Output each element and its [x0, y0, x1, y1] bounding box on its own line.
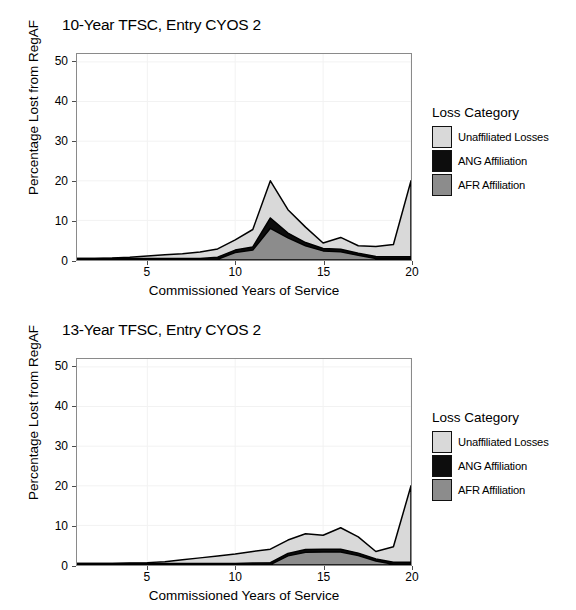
- chart-panel-13-year: 13-Year TFSC, Entry CYOS 2 Percentage Lo…: [0, 305, 576, 610]
- y-tick-label: 0: [42, 254, 68, 268]
- area-chart-svg: [77, 359, 411, 565]
- y-tick-label: 10: [42, 214, 68, 228]
- x-tick-label: 5: [143, 265, 150, 279]
- legend: Loss Category Unaffiliated Losses ANG Af…: [432, 410, 576, 502]
- chart-panel-10-year: 10-Year TFSC, Entry CYOS 2 Percentage Lo…: [0, 0, 576, 305]
- x-tick-label: 10: [228, 570, 241, 584]
- legend-label: Unaffiliated Losses: [458, 131, 549, 143]
- x-tick-label: 5: [143, 570, 150, 584]
- y-tick-label: 40: [42, 399, 68, 413]
- legend-row[interactable]: ANG Affiliation: [432, 454, 576, 478]
- legend-swatch-ang: [432, 150, 452, 172]
- y-tick-label: 20: [42, 174, 68, 188]
- chart-title: 10-Year TFSC, Entry CYOS 2: [62, 16, 261, 34]
- legend-swatch-unaffiliated: [432, 126, 452, 148]
- x-tick-label: 15: [317, 265, 330, 279]
- legend-row[interactable]: Unaffiliated Losses: [432, 125, 576, 149]
- legend-swatch-afr: [432, 479, 452, 501]
- chart-title: 13-Year TFSC, Entry CYOS 2: [62, 321, 261, 339]
- y-tick-mark: [72, 261, 76, 262]
- legend-label: ANG Affiliation: [458, 155, 527, 167]
- y-tick-label: 20: [42, 479, 68, 493]
- x-tick-label: 15: [317, 570, 330, 584]
- y-axis-label: Percentage Lost from RegAF: [26, 298, 41, 528]
- legend-row[interactable]: AFR Affiliation: [432, 478, 576, 502]
- y-tick-mark: [72, 566, 76, 567]
- x-axis-label: Commissioned Years of Service: [76, 588, 412, 603]
- y-tick-mark: [72, 101, 76, 102]
- y-tick-mark: [72, 446, 76, 447]
- y-axis-label: Percentage Lost from RegAF: [26, 0, 41, 223]
- y-tick-mark: [72, 61, 76, 62]
- legend-items: Unaffiliated Losses ANG Affiliation AFR …: [432, 430, 576, 502]
- legend-row[interactable]: AFR Affiliation: [432, 173, 576, 197]
- y-tick-label: 50: [42, 359, 68, 373]
- legend-title: Loss Category: [432, 105, 576, 120]
- y-tick-label: 40: [42, 94, 68, 108]
- x-tick-label: 20: [405, 265, 418, 279]
- legend-swatch-ang: [432, 455, 452, 477]
- y-tick-mark: [72, 486, 76, 487]
- legend-items: Unaffiliated Losses ANG Affiliation AFR …: [432, 125, 576, 197]
- y-tick-label: 50: [42, 54, 68, 68]
- legend-swatch-afr: [432, 174, 452, 196]
- legend-swatch-unaffiliated: [432, 431, 452, 453]
- legend-title: Loss Category: [432, 410, 576, 425]
- plot-area: [76, 358, 412, 566]
- x-axis-label: Commissioned Years of Service: [76, 283, 412, 298]
- y-tick-label: 30: [42, 134, 68, 148]
- y-tick-mark: [72, 221, 76, 222]
- y-tick-label: 10: [42, 519, 68, 533]
- y-tick-mark: [72, 141, 76, 142]
- y-tick-label: 30: [42, 439, 68, 453]
- legend-row[interactable]: Unaffiliated Losses: [432, 430, 576, 454]
- x-tick-label: 10: [228, 265, 241, 279]
- x-tick-label: 20: [405, 570, 418, 584]
- plot-area: [76, 53, 412, 261]
- legend-row[interactable]: ANG Affiliation: [432, 149, 576, 173]
- y-tick-mark: [72, 406, 76, 407]
- legend-label: AFR Affiliation: [458, 484, 525, 496]
- y-tick-mark: [72, 366, 76, 367]
- y-tick-mark: [72, 526, 76, 527]
- legend-label: AFR Affiliation: [458, 179, 525, 191]
- legend-label: Unaffiliated Losses: [458, 436, 549, 448]
- legend-label: ANG Affiliation: [458, 460, 527, 472]
- y-tick-label: 0: [42, 559, 68, 573]
- area-chart-svg: [77, 54, 411, 260]
- y-tick-mark: [72, 181, 76, 182]
- legend: Loss Category Unaffiliated Losses ANG Af…: [432, 105, 576, 197]
- figure-root: 10-Year TFSC, Entry CYOS 2 Percentage Lo…: [0, 0, 576, 610]
